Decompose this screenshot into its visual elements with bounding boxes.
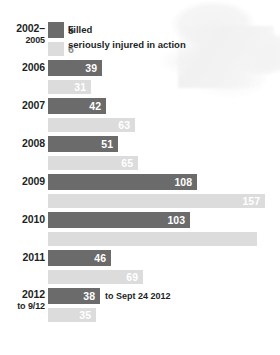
- bar-killed: 108: [48, 174, 197, 190]
- bar-value-label: 46: [94, 252, 106, 264]
- bar-value-label: 65: [121, 157, 133, 169]
- row-year-label: 2012to 9/12: [0, 289, 45, 312]
- bar-value-label: 42: [89, 100, 101, 112]
- row-annotation: to Sept 24 2012: [105, 291, 171, 301]
- bar-value-label: 63: [118, 119, 130, 131]
- legend-killed-label: killed: [68, 25, 92, 36]
- row-year-primary: 2008: [22, 137, 45, 149]
- row-year-primary: 2002–: [16, 22, 45, 34]
- bar-killed: 46: [48, 250, 111, 266]
- bar-injured: 6seriously injured in action: [48, 42, 64, 56]
- bar-injured: 157: [48, 194, 265, 208]
- row-year-label: 2010: [0, 214, 45, 226]
- row-year-label: 2006: [0, 62, 45, 74]
- bar-injured: 35: [48, 308, 96, 322]
- row-year-label: 2008: [0, 138, 45, 150]
- bar-killed: 103: [48, 212, 190, 228]
- row-year-label: 2011: [0, 252, 45, 264]
- bar-injured: [48, 232, 257, 246]
- bar-value-label: 51: [101, 138, 113, 150]
- row-year-label: 2009: [0, 176, 45, 188]
- bar-killed: 5killed: [48, 22, 64, 38]
- bar-value-label: 103: [167, 214, 185, 226]
- row-year-primary: 2012: [22, 288, 45, 300]
- chart-row: 2009108157: [0, 174, 280, 208]
- legend-injured-label: seriously injured in action: [68, 40, 188, 51]
- chart-row: 20085165: [0, 136, 280, 170]
- bar-injured: 69: [48, 270, 143, 284]
- row-year-label: 2007: [0, 100, 45, 112]
- chart-row: 20063931: [0, 60, 280, 94]
- row-year-secondary: to 9/12: [0, 301, 45, 313]
- bar-killed: 42: [48, 98, 106, 114]
- bar-injured: 65: [48, 156, 138, 170]
- bar-injured: 63: [48, 118, 135, 132]
- row-year-label: 2002–2005: [0, 23, 45, 46]
- bar-killed: 39: [48, 60, 102, 76]
- bar-value-label: 69: [126, 271, 138, 283]
- bar-killed: 51: [48, 136, 118, 152]
- bar-injured: 31: [48, 80, 91, 94]
- row-year-primary: 2011: [23, 251, 45, 263]
- bar-value-label: 39: [85, 62, 97, 74]
- chart-row: 2002–20055killed6seriously injured in ac…: [0, 22, 280, 56]
- bar-value-label: 108: [174, 176, 192, 188]
- row-year-primary: 2009: [22, 175, 45, 187]
- bar-killed: 38to Sept 24 2012: [48, 288, 100, 304]
- row-year-primary: 2006: [22, 61, 45, 73]
- row-year-secondary: 2005: [0, 35, 45, 47]
- bar-value-label: 31: [74, 81, 86, 93]
- row-year-primary: 2007: [22, 99, 45, 111]
- chart-row: 20074263: [0, 98, 280, 132]
- row-year-primary: 2010: [22, 213, 45, 225]
- bar-value-label: 38: [83, 290, 95, 302]
- bar-value-label: 35: [79, 309, 91, 321]
- casualties-bar-chart: 2002–20055killed6seriously injured in ac…: [0, 0, 280, 355]
- bar-value-label: 157: [242, 195, 260, 207]
- chart-row: 2010103: [0, 212, 280, 246]
- chart-row: 20114669: [0, 250, 280, 284]
- chart-row: 2012to 9/1238to Sept 24 201235: [0, 288, 280, 322]
